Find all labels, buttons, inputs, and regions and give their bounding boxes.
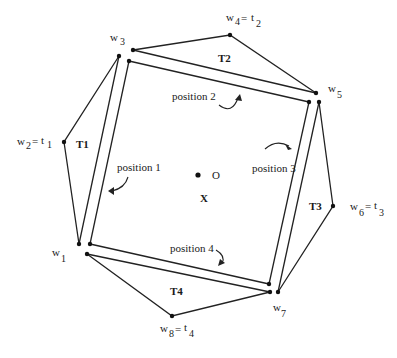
label-t2: T2 <box>218 52 231 64</box>
svg-text:t: t <box>41 134 44 146</box>
label-t4: T4 <box>170 285 183 297</box>
diagram-canvas: w 3 w 4 = t 2 w 5 w 2 = t 1 w 6 = t 3 w … <box>0 0 397 358</box>
label-x: X <box>200 192 208 204</box>
svg-text:=: = <box>175 323 181 335</box>
svg-text:3: 3 <box>120 36 125 47</box>
svg-text:8: 8 <box>169 328 174 339</box>
svg-text:w: w <box>52 246 60 258</box>
label-position-3: position 3 <box>252 162 296 174</box>
center-point-o <box>195 172 200 177</box>
label-position-2: position 2 <box>172 90 216 102</box>
svg-text:5: 5 <box>337 89 342 100</box>
position-1-arrow <box>108 177 128 195</box>
svg-text:3: 3 <box>379 207 384 218</box>
label-w7: w 7 <box>273 301 286 319</box>
label-w6-t3: w 6 = t 3 <box>350 199 384 218</box>
position-2-arrow <box>219 94 242 109</box>
svg-text:2: 2 <box>256 18 261 29</box>
svg-text:6: 6 <box>359 207 364 218</box>
label-w2-t1: w 2 = t 1 <box>17 134 52 151</box>
label-position-4: position 4 <box>170 242 214 254</box>
label-w3: w 3 <box>110 31 125 47</box>
svg-text:1: 1 <box>47 139 52 150</box>
svg-text:=: = <box>365 200 371 212</box>
svg-text:=: = <box>241 12 247 24</box>
vertex-dots <box>62 33 335 318</box>
svg-text:w: w <box>17 135 25 147</box>
triangle-t2 <box>133 35 316 93</box>
svg-text:w: w <box>110 31 118 43</box>
strip-left <box>79 56 129 244</box>
svg-text:w: w <box>328 82 336 94</box>
label-w1: w 1 <box>52 246 66 264</box>
position-3-arrow <box>265 143 292 150</box>
svg-text:=: = <box>32 135 38 147</box>
svg-text:w: w <box>273 301 281 313</box>
label-t1: T1 <box>76 138 89 150</box>
svg-text:w: w <box>160 322 168 334</box>
label-w8-t4: w 8 = t 4 <box>160 321 194 339</box>
triangle-t3 <box>278 102 333 292</box>
strip-right <box>269 102 319 292</box>
svg-text:7: 7 <box>281 308 286 319</box>
position-4-arrow <box>216 250 225 266</box>
svg-text:4: 4 <box>235 16 240 27</box>
svg-text:t: t <box>251 11 254 23</box>
svg-text:2: 2 <box>26 140 31 151</box>
svg-text:w: w <box>226 11 234 23</box>
svg-text:4: 4 <box>189 328 194 339</box>
triangle-t1 <box>64 56 119 244</box>
label-o: O <box>212 169 220 181</box>
svg-text:t: t <box>184 321 187 333</box>
svg-text:1: 1 <box>61 253 66 264</box>
label-t3: T3 <box>309 200 322 212</box>
label-position-1: position 1 <box>117 161 161 173</box>
label-w5: w 5 <box>328 82 342 100</box>
svg-text:w: w <box>350 200 358 212</box>
svg-text:t: t <box>374 199 377 211</box>
label-w4-t2: w 4 = t 2 <box>226 11 261 29</box>
